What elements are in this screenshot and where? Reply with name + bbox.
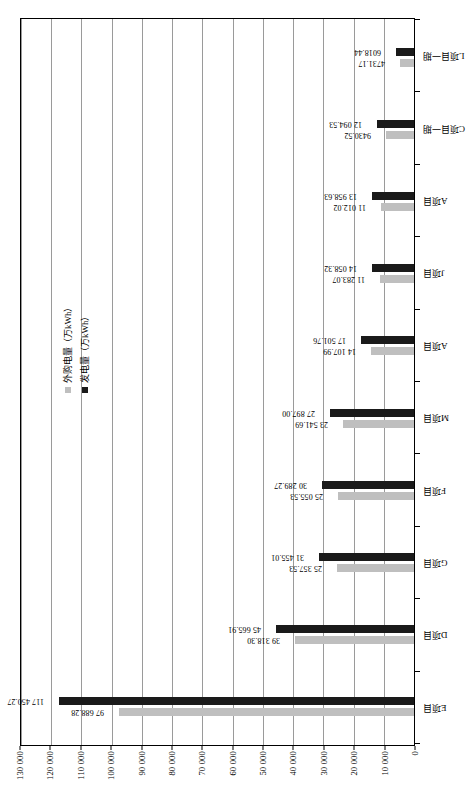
legend-swatch [82, 387, 88, 393]
bar-value-label: 4731.17 [358, 58, 385, 67]
x-axis-tick-label: L项目一期 [423, 50, 465, 63]
bar[interactable] [400, 59, 414, 67]
bar-group: 11 283.0714 058.32 [21, 238, 414, 310]
x-axis-tick-label: M项目 [423, 412, 449, 425]
bar[interactable] [381, 203, 414, 211]
x-axis-category: A项目 [415, 310, 473, 382]
bar[interactable] [361, 336, 414, 344]
y-axis-tick-label: 80 000 [167, 751, 177, 776]
bar-wrapper: 39 318.30 [21, 636, 414, 644]
bar[interactable] [322, 481, 414, 489]
bar-wrapper: 25 357.53 [21, 564, 414, 572]
bar[interactable] [119, 708, 414, 716]
bar-wrapper: 9430.52 [21, 131, 414, 139]
y-axis-tick-label: 70 000 [197, 751, 207, 776]
bar[interactable] [338, 492, 414, 500]
bar-value-label: 23 541.69 [295, 419, 328, 428]
bar-value-label: 45 665.91 [228, 625, 261, 634]
bar[interactable] [371, 347, 414, 355]
y-axis-tick-label: 0 [410, 751, 420, 755]
bar[interactable] [337, 564, 414, 572]
y-axis-tick-mark [323, 746, 324, 750]
bar-value-label: 97 688.28 [71, 708, 104, 717]
bar[interactable] [386, 131, 415, 139]
y-axis-tick-mark [263, 746, 264, 750]
bar-wrapper: 30 289.27 [21, 481, 414, 489]
y-axis-tick-label: 40 000 [288, 751, 298, 776]
bar[interactable] [295, 636, 414, 644]
bar[interactable] [59, 697, 414, 705]
bar-wrapper: 12 094.53 [21, 120, 414, 128]
bar-wrapper: 11 283.07 [21, 275, 414, 283]
y-axis-tick-mark [293, 746, 294, 750]
x-axis-tick-mark [415, 236, 420, 237]
x-axis-category: M项目 [415, 382, 473, 454]
bar-value-label: 14 058.32 [324, 264, 357, 273]
bar-wrapper: 23 541.69 [21, 420, 414, 428]
x-axis-category: L项目一期 [415, 20, 473, 92]
bar-wrapper: 31 455.01 [21, 553, 414, 561]
bar-group: 25 055.5330 289.27 [21, 454, 414, 526]
x-axis-tick-label: C项目一期 [423, 122, 465, 135]
y-axis-tick-label: 60 000 [228, 751, 238, 776]
y-axis-tick-label: 130 000 [15, 751, 25, 780]
x-axis-category: C项目一期 [415, 92, 473, 164]
x-axis-tick-mark [415, 743, 420, 744]
y-axis-tick-label: 30 000 [319, 751, 329, 776]
bar[interactable] [380, 275, 414, 283]
y-axis-tick-label: 120 000 [45, 751, 55, 780]
x-axis-category: J项目 [415, 237, 473, 309]
bar-value-label: 13 958.63 [324, 191, 357, 200]
x-axis-tick-label: J项目 [423, 267, 445, 280]
x-axis-category: E项目 [415, 672, 473, 744]
y-axis-tick-mark [171, 746, 172, 750]
bar-group: 39 318.3045 665.91 [21, 599, 414, 671]
bar-group: 97 688.28117 450.27 [21, 671, 414, 743]
legend-swatch [65, 387, 71, 393]
bar-value-label: 9430.52 [344, 130, 371, 139]
bar[interactable] [276, 625, 414, 633]
legend-item[interactable]: 发电量（万kWh） [78, 303, 91, 394]
bar[interactable] [372, 192, 414, 200]
bar-group: 11 012.0213 958.63 [21, 165, 414, 237]
bar-wrapper: 27 897.00 [21, 409, 414, 417]
x-axis-category: D项目 [415, 599, 473, 671]
bar-wrapper: 11 012.02 [21, 203, 414, 211]
x-axis-tick-mark [415, 453, 420, 454]
bar-wrapper: 13 958.63 [21, 192, 414, 200]
bar-value-label: 27 897.00 [282, 408, 315, 417]
bar[interactable] [377, 120, 414, 128]
y-axis-tick-label: 50 000 [258, 751, 268, 776]
bar[interactable] [396, 48, 414, 56]
x-axis-tick-label: F项目 [423, 484, 446, 497]
bar-value-label: 17 501.76 [313, 336, 346, 345]
bar[interactable] [372, 264, 414, 272]
bar-value-label: 31 455.01 [271, 553, 304, 562]
y-axis-tick-mark [232, 746, 233, 750]
y-axis-tick-mark [202, 746, 203, 750]
bar[interactable] [343, 420, 414, 428]
bar[interactable] [330, 409, 414, 417]
x-axis-tick-mark [415, 381, 420, 382]
legend-item[interactable]: 外购电量（万kWh） [61, 303, 74, 394]
y-axis: 010 00020 00030 00040 00050 00060 00070 … [20, 746, 415, 788]
bar-group: 25 357.5331 455.01 [21, 526, 414, 598]
y-axis-tick-label: 100 000 [106, 751, 116, 780]
x-axis-tick-mark [415, 598, 420, 599]
bar-group: 4731.176018.44 [21, 21, 414, 93]
bar[interactable] [319, 553, 414, 561]
plot-area: 97 688.28117 450.2739 318.3045 665.9125 … [20, 18, 415, 746]
x-axis-tick-label: A项目 [423, 194, 448, 207]
x-axis-tick-label: E项目 [423, 701, 447, 714]
bar-value-label: 39 318.30 [247, 636, 280, 645]
y-axis-tick-mark [384, 746, 385, 750]
x-axis: E项目D项目G项目F项目M项目A项目J项目A项目C项目一期L项目一期 [415, 18, 473, 746]
bar-value-label: 25 055.53 [290, 491, 323, 500]
x-axis-tick-mark [415, 91, 420, 92]
bar-value-label: 30 289.27 [275, 480, 308, 489]
bar-wrapper: 45 665.91 [21, 625, 414, 633]
bar-value-label: 14 107.99 [323, 347, 356, 356]
x-axis-tick-label: G项目 [423, 556, 448, 569]
bar-value-label: 25 357.53 [289, 564, 322, 573]
y-axis-tick-label: 10 000 [380, 751, 390, 776]
